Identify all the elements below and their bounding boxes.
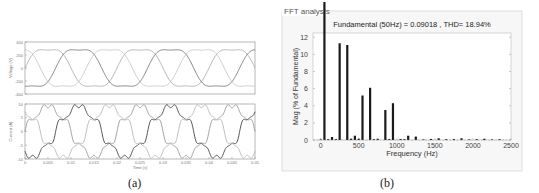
ytick-label: 0 [21,66,24,71]
time-domain-chart: 4002000-200-400Voltage (V)1050-5-10Curre… [0,0,270,193]
frame-title: FFT analysis [284,7,330,16]
fft-chart: FFT analysisFundamental (50Hz) = 0.09018… [270,0,539,193]
ytick-label: 0 [21,129,24,134]
xlabel: Time (s) [133,165,148,170]
ytick-label: 2 [304,119,308,126]
xtick-label: 0.03 [159,160,168,165]
xtick-label: 0 [319,142,323,149]
ytick-label: 6 [304,85,308,92]
xtick-label: 0.015 [89,160,100,165]
ytick-label: 8 [304,68,308,75]
xlabel: Frequency (Hz) [386,149,438,158]
xtick-label: 0.01 [67,160,76,165]
ytick-label: 200 [16,53,23,58]
xtick-label: 500 [353,142,365,149]
bar-650hz [369,88,371,140]
panel-a: 4002000-200-400Voltage (V)1050-5-10Curre… [0,0,270,193]
axes-box [313,33,511,140]
caption-a: (a) [128,176,141,191]
bar-550hz [361,95,363,140]
ytick-label: 400 [16,40,23,45]
ytick-label: -10 [17,157,24,162]
bar-150hz [331,137,333,140]
ytick-label: -400 [15,92,24,97]
bar-50hz [323,2,325,140]
ytick-label: 0 [304,137,308,144]
ytick-label: 10 [300,51,308,58]
xtick-label: 0.035 [181,160,192,165]
bar-1550hz [438,138,440,140]
ylabel-voltage: Voltage (V) [8,57,13,77]
axes-current [25,104,255,159]
bar-1250hz [415,137,417,140]
xtick-label: 0 [24,160,27,165]
ytick-label: -5 [19,143,23,148]
xtick-label: 0.05 [251,160,260,165]
ytick-label: 4 [304,102,308,109]
ytick-label: 12 [300,34,308,41]
xtick-label: 0.005 [43,160,54,165]
bar-950hz [392,103,394,140]
xtick-label: 1500 [427,142,443,149]
bar-250hz [339,43,341,140]
xtick-label: 0.02 [113,160,122,165]
ytick-label: -200 [15,79,24,84]
xtick-label: 2000 [465,142,481,149]
bar-350hz [346,45,348,140]
caption-b: (b) [380,176,394,191]
ytick-label: 10 [19,102,24,107]
ytick-label: 5 [21,115,24,120]
xtick-label: 0.045 [227,160,238,165]
bar-1150hz [407,136,409,140]
ylabel: Mag (% of Fundamental) [292,48,300,125]
ylabel-current: Current (A) [8,121,13,141]
chart-title: Fundamental (50Hz) = 0.09018 , THD= 18.9… [333,20,491,29]
bar-850hz [384,110,386,140]
bar-1850hz [460,138,462,140]
bar-450hz [354,136,356,140]
panel-b: FFT analysisFundamental (50Hz) = 0.09018… [270,0,539,193]
xtick-label: 0.04 [205,160,214,165]
xtick-label: 2500 [503,142,519,149]
xtick-label: 1000 [389,142,405,149]
